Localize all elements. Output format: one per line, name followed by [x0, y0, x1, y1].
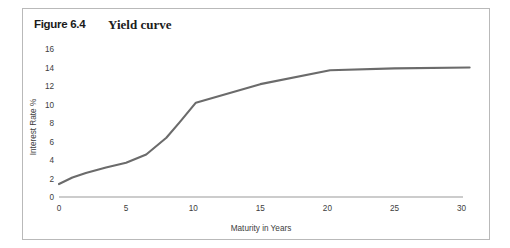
yield-curve-chart: 0246810121416 051015202530 Interest Rate…	[23, 43, 491, 241]
y-tick-label: 4	[49, 156, 54, 165]
y-tick-label: 2	[49, 175, 54, 184]
x-axis-tick-labels: 051015202530	[57, 204, 467, 213]
y-axis-tick-labels: 0246810121416	[45, 45, 55, 202]
figure-title-label: Yield curve	[108, 17, 171, 33]
y-axis-title: Interest Rate %	[29, 99, 38, 155]
y-tick-label: 10	[45, 101, 55, 110]
y-tick-label: 0	[49, 193, 54, 202]
figure-number-label: Figure 6.4	[34, 18, 85, 30]
chart-plot-area: 0246810121416 051015202530 Interest Rate…	[23, 43, 491, 241]
x-axis-title: Maturity in Years	[231, 224, 292, 233]
x-tick-label: 5	[124, 204, 129, 213]
x-tick-label: 25	[390, 204, 400, 213]
figure-title-row: Figure 6.4 Yield curve	[23, 9, 489, 43]
x-tick-label: 0	[57, 204, 62, 213]
yield-curve-line	[59, 68, 470, 185]
y-tick-label: 8	[49, 119, 54, 128]
x-tick-label: 15	[256, 204, 266, 213]
x-tick-label: 10	[189, 204, 199, 213]
x-tick-label: 20	[323, 204, 333, 213]
y-tick-label: 6	[49, 138, 54, 147]
y-tick-label: 12	[45, 82, 55, 91]
y-tick-label: 14	[45, 64, 55, 73]
y-tick-label: 16	[45, 45, 55, 54]
figure-frame: Figure 6.4 Yield curve 0246810121416 051…	[22, 8, 490, 240]
x-tick-label: 30	[457, 204, 467, 213]
